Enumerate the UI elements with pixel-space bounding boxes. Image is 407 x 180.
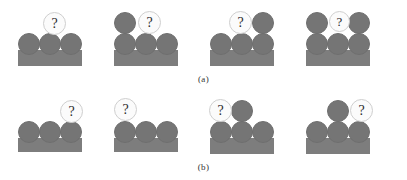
figure-container: ???? (a) ???? (b) (0, 0, 407, 180)
block-base-left (210, 121, 232, 143)
question-mark-glyph: ? (358, 104, 364, 118)
block-base-left (306, 121, 328, 143)
block-base-left (114, 33, 136, 55)
question-mark-glyph: ? (122, 103, 128, 117)
block-base-left (114, 121, 136, 143)
figure-row-a: ???? (0, 2, 407, 80)
question-bubble: ? (229, 11, 252, 34)
block-base-middle (231, 33, 253, 55)
question-bubble: ? (138, 11, 161, 34)
caption-b: (b) (0, 162, 407, 172)
block-base-left (210, 33, 232, 55)
question-bubble: ? (329, 11, 350, 32)
block-stacked-on-middle (327, 100, 349, 122)
block-base-middle (327, 33, 349, 55)
figure-row-b: ???? (0, 90, 407, 168)
panel-b-4: ? (0, 90, 100, 168)
question-bubble: ? (114, 98, 137, 121)
question-mark-glyph: ? (337, 15, 343, 28)
block-base-left (306, 33, 328, 55)
question-bubble: ? (350, 99, 373, 122)
block-base-middle (135, 121, 157, 143)
block-base-right (156, 33, 178, 55)
block-base-right (252, 33, 274, 55)
question-mark-glyph: ? (146, 16, 152, 30)
block-base-right (252, 121, 274, 143)
block-base-middle (231, 121, 253, 143)
block-stacked-on-right (348, 12, 370, 34)
block-base-middle (135, 33, 157, 55)
block-stacked-on-middle (231, 100, 253, 122)
block-base-right (156, 121, 178, 143)
question-bubble: ? (209, 99, 232, 122)
panel-a-4: ? (0, 2, 100, 80)
block-base-right (348, 121, 370, 143)
block-base-middle (327, 121, 349, 143)
block-base-right (348, 33, 370, 55)
block-stacked-on-right (252, 12, 274, 34)
block-stacked-on-left (114, 12, 136, 34)
question-mark-glyph: ? (217, 104, 223, 118)
question-mark-glyph: ? (237, 16, 243, 30)
caption-a: (a) (0, 74, 407, 84)
block-stacked-on-left (306, 12, 328, 34)
